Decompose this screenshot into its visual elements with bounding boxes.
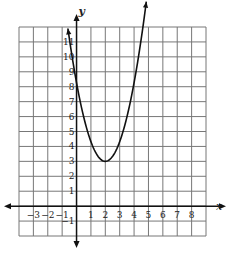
x-axis-left-arrow-icon bbox=[4, 203, 11, 209]
x-tick-label: −3 bbox=[27, 210, 41, 220]
y-tick-label: 5 bbox=[69, 127, 75, 137]
x-tick-label: −2 bbox=[41, 210, 54, 220]
x-tick-label: 3 bbox=[117, 210, 123, 220]
x-axis-label: x bbox=[216, 200, 223, 213]
y-tick-label: 6 bbox=[69, 112, 75, 122]
y-axis-label: y bbox=[78, 5, 87, 18]
x-tick-label: 5 bbox=[146, 210, 152, 220]
y-tick-label: 7 bbox=[69, 97, 75, 107]
y-tick-label: 4 bbox=[69, 141, 75, 151]
x-tick-label: 2 bbox=[102, 210, 108, 220]
x-tick-label: 7 bbox=[174, 210, 180, 220]
x-tick-label: 8 bbox=[189, 210, 195, 220]
x-tick-label: 6 bbox=[160, 210, 166, 220]
x-tick-label: 4 bbox=[131, 210, 137, 220]
y-tick-label: 1 bbox=[69, 186, 75, 196]
y-tick-label: 2 bbox=[69, 171, 75, 181]
x-tick-label: 1 bbox=[88, 210, 94, 220]
y-tick-label: −1 bbox=[61, 216, 74, 226]
y-tick-label: 8 bbox=[69, 82, 75, 92]
y-tick-label: 3 bbox=[69, 156, 75, 166]
y-axis-down-arrow-icon bbox=[74, 241, 80, 248]
parabola-graph: yx−3−2−112345678−11234567891011 bbox=[0, 0, 233, 254]
